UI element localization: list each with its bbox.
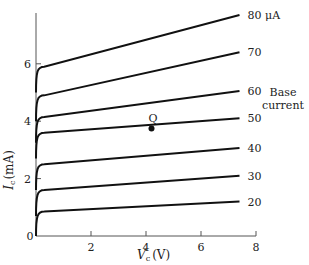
curve-label-30: 30	[248, 170, 262, 183]
curve-label-80: 80 μA	[248, 9, 282, 22]
x-axis-title-text: Vc(V)	[137, 248, 170, 263]
y-axis-title-text: Ic(mA)	[2, 150, 17, 191]
curve-label-50: 50	[248, 112, 262, 125]
y-axis-title: Ic(mA)	[2, 150, 17, 191]
curve-label-70: 70	[248, 46, 262, 59]
q-point-marker	[149, 125, 155, 131]
curves	[36, 15, 240, 236]
curve-20-ua	[36, 202, 240, 236]
x-tick-label: 6	[198, 241, 205, 254]
curve-80-ua	[36, 15, 240, 92]
legend-title-line1: Base	[270, 86, 297, 99]
y-tick-label: 6	[24, 58, 31, 71]
transistor-characteristic-chart: 02468 246 80 μA706050403020 Q Base curre…	[0, 0, 309, 265]
x-tick-label: 8	[253, 241, 260, 254]
curve-50-ua	[36, 118, 240, 158]
y-tick-label: 4	[24, 115, 31, 128]
x-tick-label: 0	[27, 230, 34, 243]
curve-label-20: 20	[248, 196, 262, 209]
curve-70-ua	[36, 52, 240, 121]
legend-title-line2: current	[262, 99, 304, 112]
y-tick-label: 2	[24, 173, 31, 186]
legend-title: Base current	[262, 86, 304, 112]
curve-60-ua	[36, 91, 240, 143]
curve-label-60: 60	[248, 85, 262, 98]
q-point: Q	[149, 112, 158, 131]
curve-label-40: 40	[248, 142, 262, 155]
q-point-label: Q	[149, 112, 158, 125]
x-tick-label: 2	[88, 241, 95, 254]
x-axis-title: Vc(V)	[137, 248, 170, 263]
